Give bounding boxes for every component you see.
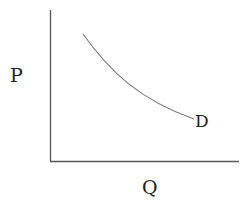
curve-label-d: D [195,111,209,131]
demand-curve-diagram: P Q D [0,0,249,200]
x-axis-label: Q [142,176,158,198]
demand-curve [83,34,194,119]
y-axis-label: P [10,64,23,86]
